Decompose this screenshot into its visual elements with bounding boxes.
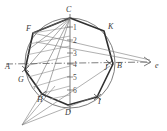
axis-arrowhead-icon (144, 57, 151, 66)
vertex-marks (22, 60, 113, 100)
division-label-6: 6 (73, 86, 77, 95)
division-label-3: 3 (73, 49, 77, 58)
construction-rays-from-c (25, 18, 70, 96)
vertex-label-j: J (104, 63, 108, 72)
axis-label-e: e (155, 61, 159, 70)
vertex-label-c: C (66, 5, 72, 14)
vertex-label-f: F (25, 24, 31, 33)
vertex-label-i: I (97, 97, 101, 106)
vertex-label-d: D (64, 108, 71, 117)
division-label-5: 5 (73, 73, 77, 82)
geometry-figure: C K B J I D H G A F e 1 2 3 4 5 6 (0, 0, 167, 131)
division-label-4: 4 (73, 60, 77, 69)
division-label-1: 1 (73, 23, 77, 32)
vertex-label-h: H (36, 95, 44, 104)
vertex-label-a: A (4, 62, 10, 71)
horizontal-axis (6, 62, 150, 64)
division-label-2: 2 (73, 36, 77, 45)
vertex-label-k: K (107, 22, 114, 31)
vertex-label-g: G (18, 75, 24, 84)
vertex-label-b: B (117, 61, 122, 70)
